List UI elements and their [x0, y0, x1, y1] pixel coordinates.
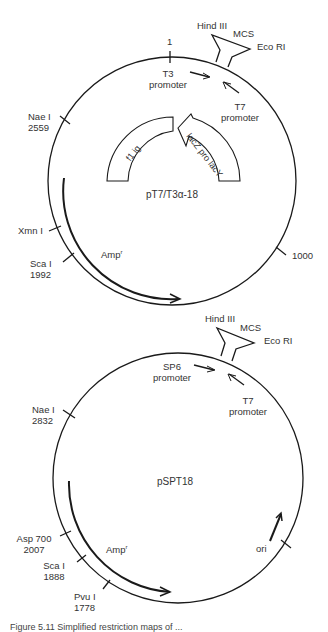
p2-promoter-sp6: SP6 promoter	[150, 361, 194, 383]
p2-plasmid-name: pSPT18	[145, 476, 205, 487]
p2-site-naei: Nae I 2832	[32, 404, 55, 426]
p2-site-asp700: Asp 700 2007	[14, 533, 54, 555]
p1-site-scai: Sca I 1992	[30, 258, 52, 280]
p2-site-pvui: Pvu I 1778	[74, 591, 96, 613]
plasmid2-amp-arc	[69, 481, 170, 592]
p1-site-naei: Nae I 2559	[28, 111, 51, 133]
p1-plasmid-name: pT7/T3α-18	[132, 189, 212, 200]
p1-mcs-label: MCS	[233, 28, 254, 39]
plasmid1-tick-scai	[63, 253, 74, 262]
p2-amp-label: Ampr	[106, 542, 128, 555]
p1-site-1000: 1000	[292, 250, 313, 261]
figure-caption: Figure 5.11 Simplified restriction maps …	[10, 622, 182, 632]
p2-mcs-right-site: Eco RI	[264, 335, 293, 346]
plasmid1-tick-xmni	[49, 226, 61, 231]
p2-mcs-left-site: Hind III	[205, 313, 235, 324]
p2-mcs-label: MCS	[240, 322, 261, 333]
p2-site-scai: Sca I 1888	[38, 560, 70, 582]
p1-promoter-t7: T7 promoter	[218, 101, 262, 123]
p2-ori-label: ori	[256, 543, 267, 554]
plasmid2-tick-pvui	[103, 580, 110, 589]
p1-mcs-left-site: Hind III	[197, 20, 227, 31]
plasmid2-ori-arrow	[270, 514, 281, 541]
plasmid1-mcs-funnel	[212, 35, 250, 67]
plasmid1-backbone	[48, 57, 296, 305]
p1-amp-label: Ampr	[101, 247, 123, 260]
p1-promoter-t3: T3 promoter	[148, 68, 188, 90]
p1-site-xmni: Xmn I	[18, 225, 43, 236]
p1-mcs-right-site: Eco RI	[257, 41, 286, 52]
p2-promoter-t7: T7 promoter	[226, 395, 270, 417]
plasmid1-tick-1000	[276, 247, 286, 255]
plasmid2-t7-arrow	[229, 374, 244, 385]
p1-position-one: 1	[167, 36, 172, 47]
plasmid1-t7-arrow	[224, 82, 239, 93]
